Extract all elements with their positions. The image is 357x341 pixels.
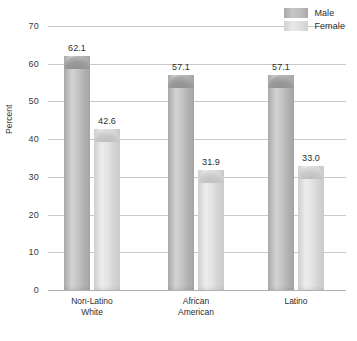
bar-male-0 [64, 56, 90, 290]
bar-value-label-female-1: 31.9 [196, 157, 226, 167]
bar-foot [64, 286, 90, 290]
bar-value-label-male-2: 57.1 [266, 62, 296, 72]
bar-male-2 [268, 75, 294, 290]
bar-body [298, 166, 324, 290]
bar-body [268, 75, 294, 290]
legend-label: Male [314, 8, 334, 18]
category-line-1: Non-Latino [71, 296, 113, 306]
category-line-1: African [183, 296, 209, 306]
bar-value-label-male-1: 57.1 [166, 62, 196, 72]
bar-chart: 010203040506070 Percent 62.142.6Non-Lati… [0, 0, 357, 341]
legend-item-female[interactable]: Female [284, 21, 345, 31]
category-line-1: Latino [284, 296, 307, 306]
legend-label: Female [314, 21, 345, 31]
bar-male-1 [168, 75, 194, 290]
chart-legend: MaleFemale [284, 8, 345, 31]
x-category-label-2: Latino [251, 296, 341, 307]
bar-foot [268, 286, 294, 290]
legend-swatch-female [284, 21, 308, 31]
category-line-2: White [47, 307, 137, 318]
bar-female-2 [298, 166, 324, 290]
bar-body [94, 129, 120, 290]
bar-value-label-female-0: 42.6 [92, 116, 122, 126]
bar-foot [168, 286, 194, 290]
bars-layer: 62.142.6Non-LatinoWhite57.131.9AfricanAm… [0, 0, 357, 341]
bar-female-1 [198, 170, 224, 290]
bar-body [198, 170, 224, 290]
x-category-label-1: AfricanAmerican [151, 296, 241, 318]
bar-foot [94, 286, 120, 290]
x-category-label-0: Non-LatinoWhite [47, 296, 137, 318]
bar-female-0 [94, 129, 120, 290]
bar-foot [198, 286, 224, 290]
legend-swatch-male [284, 8, 308, 18]
bar-body [64, 56, 90, 290]
bar-foot [298, 286, 324, 290]
category-line-2: American [151, 307, 241, 318]
bar-value-label-male-0: 62.1 [62, 43, 92, 53]
legend-item-male[interactable]: Male [284, 8, 345, 18]
bar-value-label-female-2: 33.0 [296, 153, 326, 163]
bar-body [168, 75, 194, 290]
